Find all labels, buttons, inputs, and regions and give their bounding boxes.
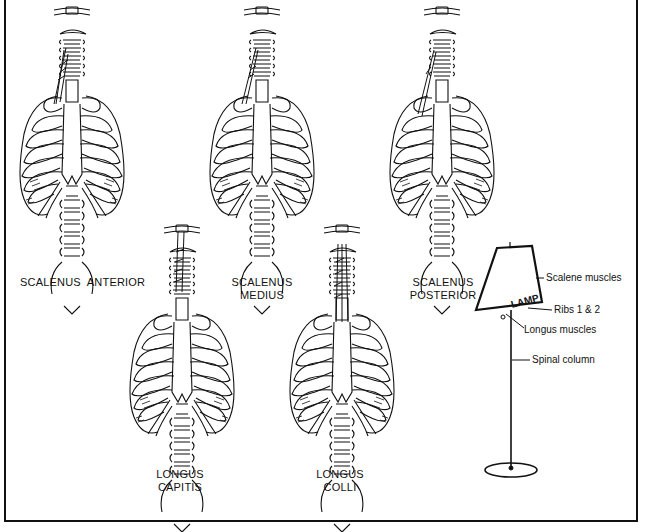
callout-scalene-muscles: Scalene muscles xyxy=(546,272,622,284)
callout-ribs-1-2: Ribs 1 & 2 xyxy=(554,304,600,316)
callout-longus-muscles: Longus muscles xyxy=(524,324,596,336)
lamp-shade-text: LAMP xyxy=(510,292,541,310)
lamp-analogy: LAMP Scalene muscles Ribs 1 & 2 Longus m… xyxy=(440,230,640,510)
muscle-highlight xyxy=(418,50,436,116)
panel-longus-capitis: LONGUS CAPITIS xyxy=(110,222,250,522)
muscle-highlight xyxy=(334,244,348,322)
panel-longus-colli: LONGUS COLLI xyxy=(270,222,410,522)
callout-spinal-column: Spinal column xyxy=(532,354,595,366)
panel-label: LONGUS COLLI xyxy=(300,468,380,494)
panel-label: LONGUS CAPITIS xyxy=(140,468,220,494)
